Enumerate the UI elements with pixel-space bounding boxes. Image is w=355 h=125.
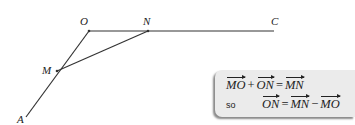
- vector-on: ON: [262, 97, 279, 112]
- label-n: N: [143, 16, 150, 27]
- point-n: [147, 30, 150, 33]
- label-m: M: [42, 65, 51, 76]
- vector-mn: MN: [290, 97, 309, 112]
- vector-mo: MO: [226, 78, 245, 93]
- vector-mo: MO: [320, 97, 339, 112]
- minus-sign: −: [311, 97, 318, 111]
- label-c: C: [271, 16, 278, 27]
- vector-on: ON: [257, 78, 274, 93]
- so-label: so: [226, 100, 262, 110]
- plus-sign: +: [247, 78, 254, 92]
- equals-sign: =: [276, 78, 283, 92]
- segment-oa: [26, 31, 89, 117]
- equation-line-2: soON=MN−MO: [226, 97, 340, 112]
- equation-box: MO+ON=MN soON=MN−MO: [215, 70, 355, 117]
- segment-mn: [57, 31, 148, 71]
- equation-line-1: MO+ON=MN: [226, 78, 304, 93]
- point-m: [56, 70, 59, 73]
- vector-mn: MN: [285, 78, 304, 93]
- point-o: [88, 30, 91, 33]
- equals-sign: =: [281, 97, 288, 111]
- label-o: O: [80, 16, 88, 27]
- label-a: A: [17, 114, 24, 125]
